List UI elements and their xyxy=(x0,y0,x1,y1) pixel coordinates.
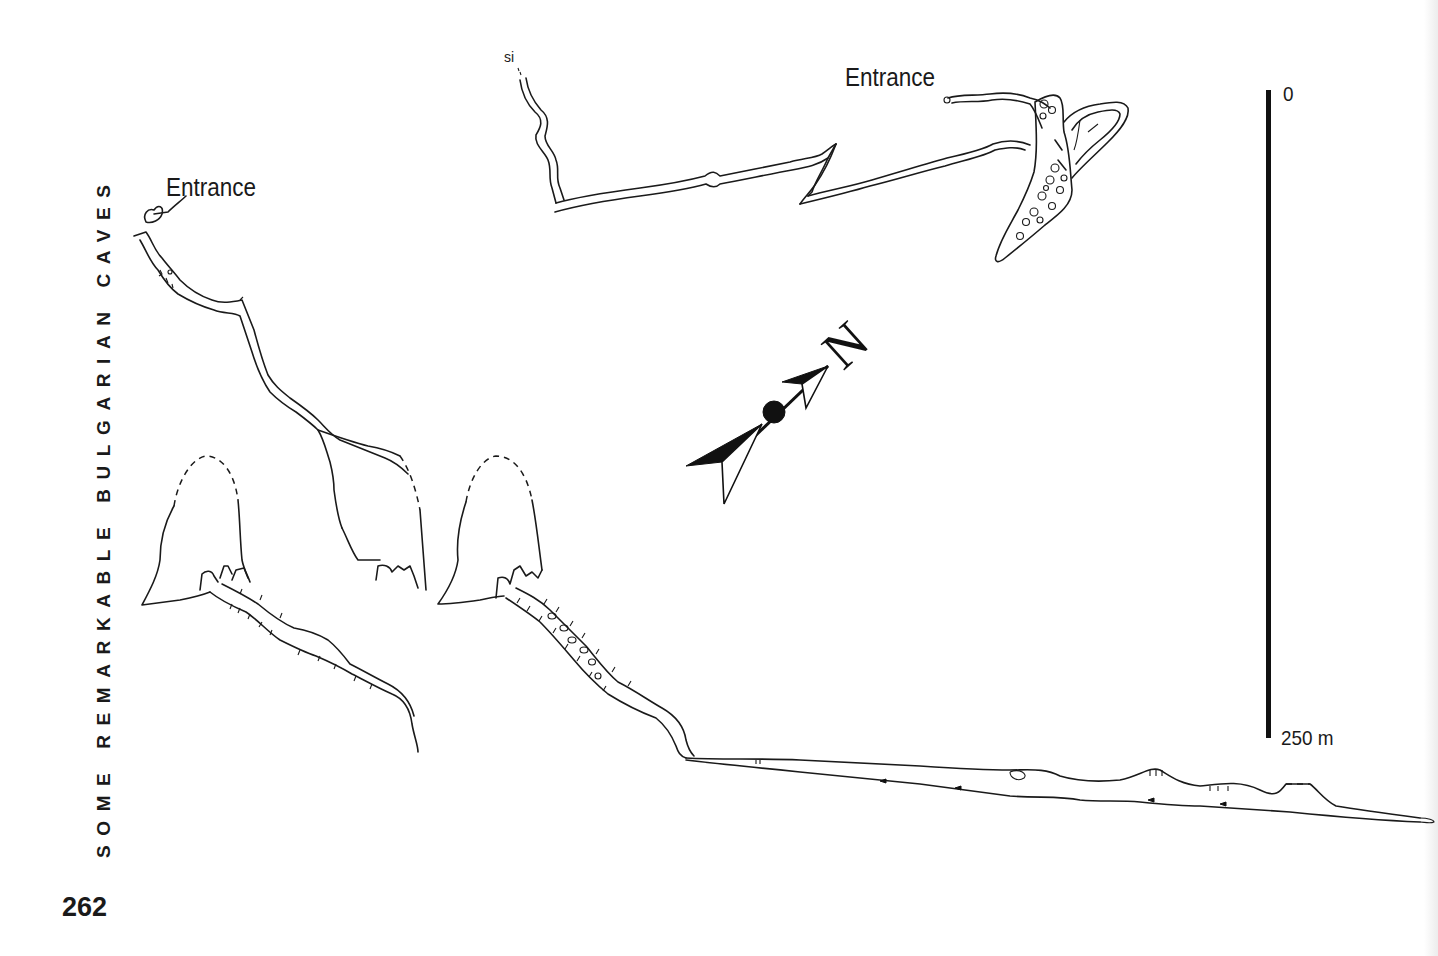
cave-profile-view xyxy=(134,196,1434,823)
cave-survey-drawing xyxy=(0,0,1438,956)
north-arrow-icon xyxy=(686,366,828,504)
scale-label-250m: 250 m xyxy=(1281,726,1334,750)
profile-entrance-label: Entrance xyxy=(166,173,256,202)
plan-entrance-label: Entrance xyxy=(845,63,935,92)
scale-label-zero: 0 xyxy=(1283,82,1294,106)
sump-label: si xyxy=(504,49,514,65)
cave-plan-view xyxy=(518,68,1128,262)
scale-bar xyxy=(1266,90,1271,738)
